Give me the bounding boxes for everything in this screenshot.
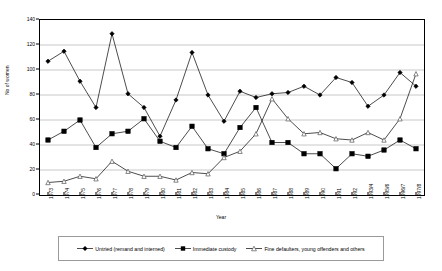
data-point-marker bbox=[350, 80, 354, 84]
y-axis: 020406080100120140 bbox=[0, 0, 39, 215]
x-tick-label: 1987 bbox=[273, 188, 278, 199]
data-point-marker bbox=[318, 152, 322, 156]
data-point-marker bbox=[254, 105, 258, 109]
x-tick-label: 1997/8 bbox=[417, 184, 422, 199]
x-tick-label: 1983 bbox=[209, 188, 214, 199]
y-tick-label: 0 bbox=[32, 192, 35, 197]
data-point-marker bbox=[254, 132, 258, 136]
y-tick-label: 60 bbox=[29, 117, 35, 122]
data-point-marker bbox=[190, 124, 194, 128]
x-tick-label: 1979 bbox=[145, 188, 150, 199]
data-point-marker bbox=[174, 98, 178, 102]
legend-label: Immediate custody bbox=[193, 246, 237, 252]
legend-label: Untried (remand and interned) bbox=[95, 246, 165, 252]
x-tick-label: 1986 bbox=[257, 188, 262, 199]
data-point-marker bbox=[382, 93, 386, 97]
x-tick-label: 1996/7 bbox=[401, 184, 406, 199]
x-tick-label: 1984 bbox=[225, 188, 230, 199]
x-axis-title: Year bbox=[0, 214, 442, 220]
data-point-marker bbox=[158, 134, 162, 138]
data-point-marker bbox=[254, 95, 258, 99]
y-tick-label: 80 bbox=[29, 92, 35, 97]
x-tick-label: 1978 bbox=[129, 188, 134, 199]
data-point-marker bbox=[366, 130, 370, 134]
x-tick-label: 1975 bbox=[81, 188, 86, 199]
x-tick-label: 1989 bbox=[305, 188, 310, 199]
data-point-marker bbox=[126, 129, 130, 133]
x-tick-label: 1980 bbox=[161, 188, 166, 199]
legend-item[interactable]: Immediate custody bbox=[175, 245, 237, 252]
legend-label: Fine defaulters, young offenders and oth… bbox=[264, 246, 364, 252]
data-point-marker bbox=[110, 32, 114, 36]
data-point-marker bbox=[270, 97, 274, 101]
x-tick-label: 1990 bbox=[321, 188, 326, 199]
series-plot bbox=[40, 20, 424, 195]
data-point-marker bbox=[366, 154, 370, 158]
data-point-marker bbox=[302, 84, 306, 88]
data-point-marker bbox=[414, 147, 418, 151]
data-point-marker bbox=[302, 152, 306, 156]
data-point-marker bbox=[62, 129, 66, 133]
y-tick-label: 40 bbox=[29, 142, 35, 147]
data-point-marker bbox=[94, 145, 98, 149]
plot-area bbox=[39, 19, 425, 196]
y-tick-label: 120 bbox=[27, 42, 35, 47]
data-point-marker bbox=[46, 138, 50, 142]
x-tick-label: 1985 bbox=[241, 188, 246, 199]
data-point-marker bbox=[190, 50, 194, 54]
x-tick-label: 1974 bbox=[65, 188, 70, 199]
triangle-marker-icon bbox=[246, 245, 262, 252]
data-point-marker bbox=[110, 132, 114, 136]
x-tick-label: 1993/4 bbox=[369, 184, 374, 199]
data-point-marker bbox=[382, 148, 386, 152]
data-point-marker bbox=[350, 152, 354, 156]
data-point-marker bbox=[110, 159, 114, 163]
square-marker-icon bbox=[175, 245, 191, 252]
x-tick-label: 1976 bbox=[97, 188, 102, 199]
series-line bbox=[48, 74, 416, 183]
data-point-marker bbox=[398, 138, 402, 142]
data-point-marker bbox=[286, 140, 290, 144]
data-point-marker bbox=[286, 90, 290, 94]
data-point-marker bbox=[414, 72, 418, 76]
x-tick-label: 1991 bbox=[337, 188, 342, 199]
series-line bbox=[48, 108, 416, 169]
data-point-marker bbox=[78, 79, 82, 83]
data-point-marker bbox=[174, 145, 178, 149]
data-point-marker bbox=[174, 178, 178, 182]
data-point-marker bbox=[238, 89, 242, 93]
data-point-marker bbox=[206, 147, 210, 151]
x-tick-label: 1973 bbox=[49, 188, 54, 199]
data-point-marker bbox=[78, 118, 82, 122]
data-point-marker bbox=[270, 140, 274, 144]
x-tick-label: 1977 bbox=[113, 188, 118, 199]
legend-item[interactable]: Untried (remand and interned) bbox=[77, 245, 165, 252]
data-point-marker bbox=[334, 167, 338, 171]
data-point-marker bbox=[238, 125, 242, 129]
y-tick-label: 20 bbox=[29, 167, 35, 172]
chart-legend: Untried (remand and interned)Immediate c… bbox=[58, 236, 384, 261]
legend-item[interactable]: Fine defaulters, young offenders and oth… bbox=[246, 245, 364, 252]
y-tick-label: 100 bbox=[27, 67, 35, 72]
data-point-marker bbox=[46, 59, 50, 63]
data-point-marker bbox=[366, 104, 370, 108]
data-point-marker bbox=[62, 49, 66, 53]
chart-page: 020406080100120140 No of women 197319741… bbox=[0, 0, 442, 271]
x-tick-label: 1988 bbox=[289, 188, 294, 199]
data-point-marker bbox=[398, 117, 402, 121]
data-point-marker bbox=[158, 139, 162, 143]
data-point-marker bbox=[94, 105, 98, 109]
x-tick-label: 1981 bbox=[177, 188, 182, 199]
series-line bbox=[48, 34, 416, 137]
x-tick-label: 1992 bbox=[353, 188, 358, 199]
x-tick-label: 1982 bbox=[193, 188, 198, 199]
data-point-marker bbox=[206, 93, 210, 97]
y-tick-label: 140 bbox=[27, 17, 35, 22]
diamond-marker-icon bbox=[77, 245, 93, 252]
y-axis-title: No of women bbox=[4, 66, 10, 95]
data-point-marker bbox=[142, 117, 146, 121]
x-tick-label: 1995/6 bbox=[385, 184, 390, 199]
